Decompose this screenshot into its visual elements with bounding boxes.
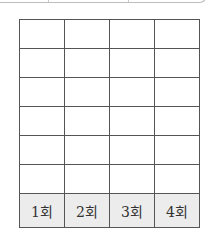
table-cell	[20, 107, 65, 136]
table-cell	[155, 20, 200, 49]
table-cell	[20, 165, 65, 194]
table-cell	[110, 136, 155, 165]
table-cell	[110, 49, 155, 78]
table-cell	[110, 20, 155, 49]
table-cell	[155, 49, 200, 78]
label-cell: 2회	[65, 194, 110, 228]
table-cell	[20, 136, 65, 165]
label-row: 1회 2회 3회 4회	[20, 194, 200, 228]
table-cell	[20, 78, 65, 107]
table-cell	[155, 165, 200, 194]
table-cell	[65, 165, 110, 194]
table-row	[20, 20, 200, 49]
table-cell	[155, 107, 200, 136]
label-cell: 1회	[20, 194, 65, 228]
table-cell	[65, 78, 110, 107]
top-frame-border	[0, 0, 206, 3]
table-cell	[20, 49, 65, 78]
label-cell: 4회	[155, 194, 200, 228]
table-cell	[110, 78, 155, 107]
table-cell	[155, 136, 200, 165]
table-row	[20, 136, 200, 165]
table-row	[20, 78, 200, 107]
frame-divider	[128, 0, 129, 2]
record-table: 1회 2회 3회 4회	[19, 19, 200, 228]
table-cell	[65, 136, 110, 165]
table-cell	[155, 78, 200, 107]
table-row	[20, 165, 200, 194]
table-cell	[20, 20, 65, 49]
frame-divider	[48, 0, 49, 2]
table-cell	[65, 49, 110, 78]
table-cell	[110, 165, 155, 194]
table-cell	[110, 107, 155, 136]
label-cell: 3회	[110, 194, 155, 228]
table-cell	[65, 20, 110, 49]
table-row	[20, 49, 200, 78]
table-row	[20, 107, 200, 136]
table-cell	[65, 107, 110, 136]
